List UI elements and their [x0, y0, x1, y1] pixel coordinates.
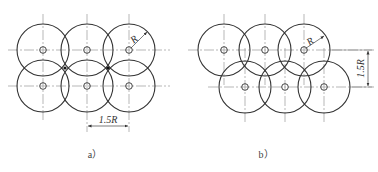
intersection-point [63, 66, 66, 69]
intersection-point [106, 66, 109, 69]
figure-caption-a: a） [88, 149, 102, 160]
spacing-label: 1.5R [99, 114, 118, 125]
spacing-label: 1.5R [355, 59, 366, 78]
figure-caption-b: b） [259, 149, 274, 160]
radius-label: R [303, 35, 315, 48]
radius-label: R [127, 33, 140, 46]
figure-a: R 1.5R a） [8, 14, 170, 160]
diagram-canvas: R 1.5R a） R 1 [0, 0, 378, 172]
figure-b: R 1.5R b） [188, 14, 374, 160]
